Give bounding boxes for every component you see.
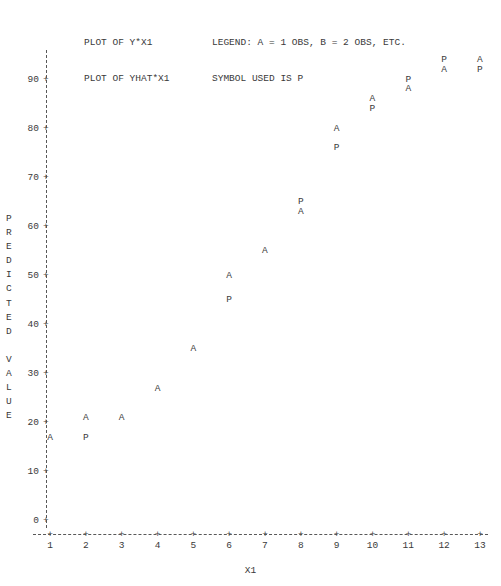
y-tick-label: 90 [17, 75, 39, 85]
y-tick-label: 50 [17, 271, 39, 281]
data-point-p: P [332, 143, 342, 153]
x-tick-label: 6 [219, 541, 239, 551]
x-tick-mark: + [477, 530, 483, 540]
x-tick-mark: + [441, 530, 447, 540]
y-axis-title-char: D [6, 254, 12, 268]
y-tick-label: 70 [17, 173, 39, 183]
y-axis-title-char: L [6, 381, 12, 395]
y-tick-label: 30 [17, 369, 39, 379]
y-tick-label: 10 [17, 467, 39, 477]
y-axis-line [46, 50, 47, 528]
data-point-a: A [403, 84, 413, 94]
x-axis-line [33, 534, 488, 535]
y-tick-label: 0 [17, 516, 39, 526]
y-tick-mark: + [43, 75, 49, 85]
x-tick-mark: + [155, 530, 161, 540]
y-tick-mark: + [43, 516, 49, 526]
y-tick-mark: + [43, 173, 49, 183]
x-tick-mark: + [262, 530, 268, 540]
y-axis-title-char: D [6, 325, 12, 339]
y-axis-title-char: C [6, 282, 12, 296]
x-tick-mark: + [119, 530, 125, 540]
y-axis-title-char: P [6, 212, 12, 226]
x-tick-mark: + [406, 530, 412, 540]
y-axis-title-char: E [6, 240, 12, 254]
y-axis-title-char: A [6, 367, 12, 381]
y-tick-mark: + [43, 271, 49, 281]
y-tick-mark: + [43, 418, 49, 428]
x-tick-label: 3 [112, 541, 132, 551]
y-tick-mark: + [43, 467, 49, 477]
y-tick-label: 80 [17, 124, 39, 134]
x-tick-mark: + [83, 530, 89, 540]
x-tick-label: 5 [183, 541, 203, 551]
data-point-a: A [296, 207, 306, 217]
data-point-a: A [117, 413, 127, 423]
x-tick-mark: + [47, 530, 53, 540]
x-tick-label: 7 [255, 541, 275, 551]
data-point-p: P [439, 55, 449, 65]
x-tick-mark: + [370, 530, 376, 540]
x-axis-title: X1 [0, 566, 501, 576]
x-tick-mark: + [191, 530, 197, 540]
x-tick-label: 12 [434, 541, 454, 551]
y-axis-title-char: I [6, 268, 12, 282]
x-tick-label: 11 [398, 541, 418, 551]
y-axis-title-char: R [6, 226, 12, 240]
data-point-p: P [475, 65, 485, 75]
y-tick-label: 60 [17, 222, 39, 232]
y-tick-label: 20 [17, 418, 39, 428]
y-axis-title-char: E [6, 409, 12, 423]
data-point-a: A [224, 271, 234, 281]
y-axis-title: PREDICTED VALUE [6, 212, 12, 423]
y-axis-title-char: T [6, 297, 12, 311]
x-tick-label: 8 [291, 541, 311, 551]
data-point-a: A [188, 344, 198, 354]
y-tick-mark: + [43, 320, 49, 330]
data-point-a: A [475, 55, 485, 65]
y-tick-mark: + [43, 124, 49, 134]
x-tick-label: 10 [362, 541, 382, 551]
x-tick-label: 13 [470, 541, 490, 551]
y-axis-title-char: U [6, 395, 12, 409]
y-tick-mark: + [43, 222, 49, 232]
y-axis-title-char [6, 339, 12, 353]
y-tick-mark: + [43, 369, 49, 379]
data-point-a: A [439, 65, 449, 75]
data-point-a: A [81, 413, 91, 423]
x-tick-label: 1 [40, 541, 60, 551]
data-point-a: A [332, 124, 342, 134]
x-tick-label: 9 [327, 541, 347, 551]
y-tick-label: 40 [17, 320, 39, 330]
x-tick-label: 4 [147, 541, 167, 551]
character-scatter-plot: PREDICTED VALUE X1 +0+10+20+30+40+50+60+… [0, 0, 501, 586]
y-axis-title-char: E [6, 311, 12, 325]
data-point-p: P [367, 104, 377, 114]
data-point-a: A [260, 246, 270, 256]
x-tick-mark: + [334, 530, 340, 540]
data-point-p: P [224, 295, 234, 305]
x-tick-mark: + [298, 530, 304, 540]
x-tick-label: 2 [76, 541, 96, 551]
x-tick-mark: + [226, 530, 232, 540]
data-point-p: P [81, 433, 91, 443]
y-axis-title-char: V [6, 353, 12, 367]
data-point-a: A [152, 384, 162, 394]
data-point-a: A [45, 433, 55, 443]
